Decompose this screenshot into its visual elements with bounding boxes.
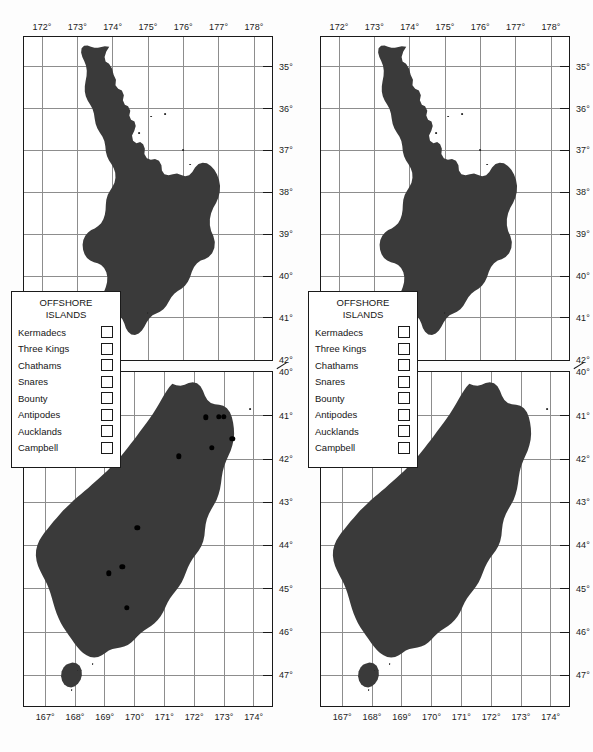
legend-checkbox[interactable] [398,376,410,388]
legend-item-label: Bounty [18,393,48,404]
legend-item-three-kings[interactable]: Three Kings [12,341,120,358]
axis-label-latitude: 41° [576,313,590,323]
legend-item-aucklands[interactable]: Aucklands [12,423,120,440]
axis-label-latitude: 42° [279,454,293,464]
legend-title-line2: ISLANDS [12,309,120,321]
legend-item-label: Three Kings [18,343,69,354]
axis-label-latitude: 47° [279,670,293,680]
legend-item-label: Antipodes [315,409,357,420]
legend-item-label: Chathams [18,360,61,371]
legend-item-campbell[interactable]: Campbell [309,440,417,457]
legend-item-campbell[interactable]: Campbell [12,440,120,457]
axis-label-latitude: 40° [279,271,293,281]
legend-item-label: Three Kings [315,343,366,354]
legend-checkbox[interactable] [398,425,410,437]
legend-checkbox[interactable] [101,409,113,421]
legend-checkbox[interactable] [398,409,410,421]
offshore-islet-marker [444,312,446,314]
legend-item-antipodes[interactable]: Antipodes [309,407,417,424]
legend-checkbox[interactable] [101,359,113,371]
offshore-islet-marker [389,663,391,665]
legend-item-three-kings[interactable]: Three Kings [309,341,417,358]
legend-item-label: Campbell [315,442,355,453]
axis-label-latitude: 37° [576,145,590,155]
axis-label-longitude: 174° [244,712,263,722]
legend-item-label: Bounty [315,393,345,404]
offshore-islet-marker [150,116,152,118]
offshore-islet-marker [461,114,463,116]
offshore-islet-marker [546,408,548,410]
legend-checkbox[interactable] [101,326,113,338]
legend-title-line2: ISLANDS [309,309,417,321]
axis-label-longitude: 173° [511,712,530,722]
legend-checkbox[interactable] [398,343,410,355]
axis-label-longitude: 172° [482,712,501,722]
axis-label-longitude: 172° [185,712,204,722]
axis-label-longitude: 168° [66,712,85,722]
offshore-islands-legend: OFFSHOREISLANDSKermadecsThree KingsChath… [308,291,418,468]
legend-checkbox[interactable] [101,392,113,404]
legend-item-label: Aucklands [18,426,62,437]
legend-item-chathams[interactable]: Chathams [12,357,120,374]
legend-item-kermadecs[interactable]: Kermadecs [12,324,120,341]
axis-label-latitude: 46° [279,627,293,637]
axis-label-longitude: 171° [155,712,174,722]
offshore-islet-marker [164,114,166,116]
offshore-islet-marker [138,132,140,134]
legend-checkbox[interactable] [101,425,113,437]
offshore-islet-marker [147,312,149,314]
legend-checkbox[interactable] [101,376,113,388]
offshore-islet-marker [77,670,79,672]
offshore-islet-marker [447,116,449,118]
legend-checkbox[interactable] [101,442,113,454]
axis-label-longitude: 173° [214,712,233,722]
axis-label-longitude: 177° [506,22,525,32]
axis-label-longitude: 169° [392,712,411,722]
offshore-islet-marker [486,164,488,166]
legend-item-kermadecs[interactable]: Kermadecs [309,324,417,341]
axis-label-longitude: 171° [452,712,471,722]
offshore-islet-marker [435,132,437,134]
axis-label-latitude: 38° [576,187,590,197]
legend-item-snares[interactable]: Snares [12,374,120,391]
axis-label-latitude: 41° [576,411,590,421]
axis-label-longitude: 173° [365,22,384,32]
axis-label-longitude: 167° [36,712,55,722]
axis-label-longitude: 178° [244,22,263,32]
axis-label-longitude: 169° [95,712,114,722]
legend-title-line1: OFFSHORE [12,297,120,309]
legend-item-aucklands[interactable]: Aucklands [309,423,417,440]
axis-label-latitude: 40° [576,367,590,377]
legend-item-bounty[interactable]: Bounty [309,390,417,407]
axis-label-longitude: 174° [103,22,122,32]
legend-checkbox[interactable] [398,442,410,454]
axis-label-latitude: 47° [576,670,590,680]
map-panel-right: 172°173°174°175°176°177°178°35°36°37°38°… [297,0,593,752]
axis-label-longitude: 170° [125,712,144,722]
legend-checkbox[interactable] [101,343,113,355]
legend-checkbox[interactable] [398,359,410,371]
axis-label-latitude: 45° [576,584,590,594]
legend-item-list: KermadecsThree KingsChathamsSnaresBounty… [12,324,120,456]
legend-item-antipodes[interactable]: Antipodes [12,407,120,424]
axis-label-longitude: 168° [363,712,382,722]
axis-label-latitude: 38° [279,187,293,197]
legend-item-label: Kermadecs [18,327,66,338]
legend-item-chathams[interactable]: Chathams [309,357,417,374]
offshore-islet-marker [374,670,376,672]
legend-item-snares[interactable]: Snares [309,374,417,391]
axis-label-longitude: 178° [541,22,560,32]
legend-item-label: Aucklands [315,426,359,437]
legend-item-list: KermadecsThree KingsChathamsSnaresBounty… [309,324,417,456]
legend-item-bounty[interactable]: Bounty [12,390,120,407]
axis-label-latitude: 43° [576,497,590,507]
axis-label-longitude: 177° [209,22,228,32]
legend-checkbox[interactable] [398,392,410,404]
axis-label-longitude: 173° [68,22,87,32]
axis-label-latitude: 37° [279,145,293,155]
legend-checkbox[interactable] [398,326,410,338]
axis-label-longitude: 167° [333,712,352,722]
distribution-figure: 172°173°174°175°176°177°178°35°36°37°38°… [0,0,593,752]
offshore-islet-marker [368,689,370,691]
offshore-islet-marker [92,663,94,665]
